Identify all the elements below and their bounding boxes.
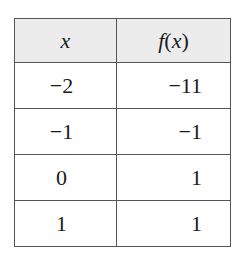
header-fx-var: x — [172, 28, 182, 53]
fx-value: 1 — [117, 201, 231, 247]
header-fx: f(x) — [117, 19, 231, 63]
table-row: 1 1 — [15, 201, 231, 247]
table-row: −1 −1 — [15, 109, 231, 155]
x-value: 0 — [15, 155, 117, 201]
header-fx-close-paren: ) — [181, 28, 188, 53]
fx-value: −11 — [117, 63, 231, 109]
header-x: x — [15, 19, 117, 63]
header-fx-open-paren: ( — [164, 28, 171, 53]
x-value: −2 — [15, 63, 117, 109]
header-x-label: x — [61, 28, 71, 53]
table-row: 0 1 — [15, 155, 231, 201]
x-value: 1 — [15, 201, 117, 247]
fx-value: 1 — [117, 155, 231, 201]
function-table-container: x f(x) −2 −11 −1 −1 0 1 1 1 — [14, 18, 231, 247]
table-header-row: x f(x) — [15, 19, 231, 63]
function-values-table: x f(x) −2 −11 −1 −1 0 1 1 1 — [14, 18, 231, 247]
fx-value: −1 — [117, 109, 231, 155]
x-value: −1 — [15, 109, 117, 155]
table-row: −2 −11 — [15, 63, 231, 109]
